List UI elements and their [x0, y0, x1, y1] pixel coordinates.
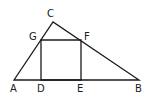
label-b: B — [135, 83, 142, 94]
geometry-diagram: A D E B C G F — [0, 0, 148, 95]
label-f: F — [84, 31, 90, 42]
label-d: D — [37, 83, 45, 94]
rectangle-defg — [41, 40, 81, 80]
label-e: E — [77, 83, 83, 94]
label-a: A — [10, 83, 17, 94]
label-c: C — [47, 8, 54, 19]
label-g: G — [29, 31, 37, 42]
